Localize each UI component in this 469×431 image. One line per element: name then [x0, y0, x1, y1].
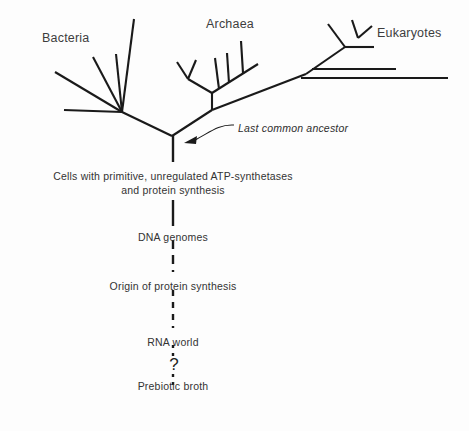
domain-label-archaea: Archaea	[206, 17, 254, 31]
stage-label-primitive-cells: Cells with primitive, unregulated ATP-sy…	[53, 170, 293, 197]
archaea-subfork-left	[188, 79, 212, 93]
last-common-ancestor-label: Last common ancestor	[238, 122, 348, 134]
eukaryote-tip-3	[352, 20, 358, 38]
domain-label-eukaryotes: Eukaryotes	[377, 26, 442, 40]
archaea-tip-2	[188, 60, 196, 79]
root-to-archaea-edge	[172, 110, 212, 136]
archaea-branch-group	[177, 41, 258, 110]
stage-label-dna-genomes: DNA genomes	[138, 231, 208, 245]
stage-primitive-cells-line1: Cells with primitive, unregulated ATP-sy…	[53, 170, 293, 184]
bacteria-tip-5	[64, 110, 122, 112]
archaea-tip-5	[241, 41, 243, 73]
bacteria-tip-1	[122, 19, 134, 112]
stage-label-origin-protein-synthesis: Origin of protein synthesis	[110, 280, 237, 294]
arrow-head-icon	[184, 136, 197, 144]
archaea-tip-1	[177, 62, 188, 79]
stage-label-rna-world: RNA world	[147, 336, 198, 350]
question-mark-label: ?	[169, 355, 179, 375]
archaea-tip-3	[215, 58, 219, 89]
archaea-to-eukaryote-spine	[212, 74, 306, 110]
phylogenetic-tree-figure: Bacteria Archaea Eukaryotes Last common …	[0, 0, 469, 431]
domain-label-bacteria: Bacteria	[42, 31, 89, 45]
stage-primitive-cells-line2: and protein synthesis	[53, 184, 293, 198]
eukaryote-tip-1	[328, 24, 345, 47]
last-common-ancestor-arrow	[184, 125, 234, 144]
root-to-bacteria-edge	[122, 112, 172, 136]
tree-diagram-svg	[0, 0, 469, 431]
archaea-tip-4	[227, 53, 229, 83]
arrow-curve-path	[195, 125, 234, 140]
stage-label-prebiotic-broth: Prebiotic broth	[138, 380, 209, 394]
eukaryote-tip-4	[358, 26, 372, 38]
